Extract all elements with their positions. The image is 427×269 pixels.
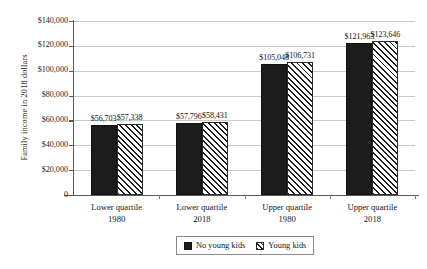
bar-solid [346, 43, 372, 195]
bar-hatch [372, 41, 398, 195]
category-label-line1: Lower quartile [91, 202, 142, 212]
x-axis-category-label: Upper quartile2018 [324, 201, 420, 226]
bar-solid [91, 125, 117, 195]
category-label-line2: 2018 [324, 213, 420, 225]
bar-chart: Family income in 2018 dollars $140,000$1… [0, 0, 427, 269]
bar-hatch [117, 124, 143, 195]
chart-legend: No young kids Young kids [176, 236, 314, 255]
legend-item-no-young-kids: No young kids [184, 241, 245, 250]
category-label-line2: 1980 [69, 213, 165, 225]
bar-hatch [202, 122, 228, 195]
legend-label-young-kids: Young kids [268, 241, 306, 250]
bar-value-label: $58,431 [202, 111, 228, 120]
y-axis-tick-label: $140,000 [8, 16, 68, 25]
x-axis-category-label: Lower quartile2018 [154, 201, 250, 226]
y-axis-tick-label: 0 [8, 190, 68, 199]
y-axis-tick-label: $100,000 [8, 65, 68, 74]
y-axis-tick-label: $120,000 [8, 40, 68, 49]
x-axis-category-label: Upper quartile1980 [239, 201, 335, 226]
bar-value-label: $57,338 [117, 113, 143, 122]
bar-value-label: $123,646 [371, 30, 401, 39]
category-label-line2: 1980 [239, 213, 335, 225]
x-axis-tick-mark [415, 195, 416, 199]
category-label-line1: Lower quartile [176, 202, 227, 212]
category-label-line1: Upper quartile [262, 202, 312, 212]
y-axis-tick-label: $80,000 [8, 90, 68, 99]
bar-value-label: $106,731 [285, 51, 315, 60]
x-axis-tick-mark [330, 195, 331, 199]
legend-swatch-solid-icon [184, 242, 192, 250]
x-axis-tick-mark [245, 195, 246, 199]
bar-hatch [287, 62, 313, 195]
bars-layer [74, 21, 415, 195]
legend-label-no-young-kids: No young kids [196, 241, 245, 250]
x-axis-category-label: Lower quartile1980 [69, 201, 165, 226]
y-axis-tick-label: $20,000 [8, 165, 68, 174]
y-axis-tick-mark [69, 195, 74, 196]
bar-value-label: $56,703 [91, 114, 117, 123]
y-axis-tick-label: $40,000 [8, 140, 68, 149]
legend-swatch-hatch-icon [256, 242, 264, 250]
y-axis-tick-label: $60,000 [8, 115, 68, 124]
x-axis-line [64, 195, 419, 196]
category-label-line2: 2018 [154, 213, 250, 225]
bar-value-label: $57,796 [176, 112, 202, 121]
category-label-line1: Upper quartile [347, 202, 397, 212]
x-axis-tick-mark [159, 195, 160, 199]
bar-solid [261, 64, 287, 195]
bar-solid [176, 123, 202, 195]
legend-item-young-kids: Young kids [256, 241, 306, 250]
